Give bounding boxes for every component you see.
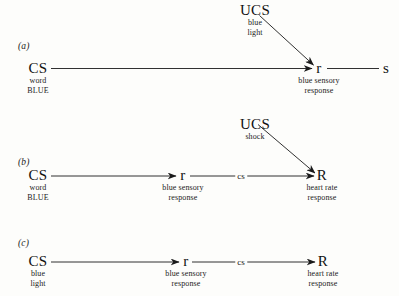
- node-a-ucs-name: UCS: [240, 3, 270, 18]
- node-c-cs: CS blue light: [29, 254, 48, 288]
- conditioning-diagram-figure: (a) UCS blue light CS word BLUE r blue s…: [0, 0, 399, 296]
- node-c-cs-sub1: blue: [29, 269, 48, 279]
- node-c-r: r blue sensory response: [165, 254, 206, 288]
- node-c-bigr-sub2: response: [308, 279, 339, 289]
- edge-label-b-cs: cs: [235, 172, 247, 181]
- node-c-cs-name: CS: [29, 254, 48, 269]
- edge-label-c-cs: cs: [235, 258, 247, 267]
- node-c-bigr: R heart rate response: [308, 254, 339, 288]
- diagram-connectors: [0, 0, 399, 296]
- node-b-bigr-sub2: response: [307, 193, 338, 203]
- node-c-r-sub1: blue sensory: [165, 269, 206, 279]
- node-b-cs: CS word BLUE: [27, 168, 48, 202]
- panel-label-c: (c): [18, 238, 29, 248]
- node-a-s: s: [383, 61, 389, 76]
- node-b-cs-sub2: BLUE: [27, 193, 48, 203]
- node-b-bigr-name: R: [307, 168, 338, 183]
- node-b-cs-name: CS: [27, 168, 48, 183]
- node-a-ucs-sub2: light: [240, 28, 270, 38]
- node-c-r-name: r: [165, 254, 206, 269]
- node-b-ucs-sub1: shock: [240, 132, 270, 142]
- node-a-cs-sub1: word: [27, 76, 48, 86]
- node-b-bigr: R heart rate response: [307, 168, 338, 202]
- node-b-r-sub1: blue sensory: [162, 183, 203, 193]
- node-c-r-sub2: response: [165, 279, 206, 289]
- node-a-r-sub2: response: [298, 86, 339, 96]
- node-b-cs-sub1: word: [27, 183, 48, 193]
- node-a-ucs-sub1: blue: [240, 18, 270, 28]
- node-a-r-sub1: blue sensory: [298, 76, 339, 86]
- panel-label-a: (a): [18, 41, 30, 51]
- node-a-cs-name: CS: [27, 61, 48, 76]
- node-c-bigr-name: R: [308, 254, 339, 269]
- panel-label-b: (b): [18, 157, 30, 167]
- node-c-bigr-sub1: heart rate: [308, 269, 339, 279]
- node-b-ucs: UCS shock: [240, 117, 270, 142]
- node-a-cs: CS word BLUE: [27, 61, 48, 95]
- node-b-ucs-name: UCS: [240, 117, 270, 132]
- node-a-ucs: UCS blue light: [240, 3, 270, 37]
- node-b-bigr-sub1: heart rate: [307, 183, 338, 193]
- node-b-r-name: r: [162, 168, 203, 183]
- node-b-r-sub2: response: [162, 193, 203, 203]
- node-c-cs-sub2: light: [29, 279, 48, 289]
- node-a-cs-sub2: BLUE: [27, 86, 48, 96]
- node-a-r-name: r: [298, 61, 339, 76]
- node-a-s-name: s: [383, 61, 389, 76]
- node-a-r: r blue sensory response: [298, 61, 339, 95]
- node-b-r: r blue sensory response: [162, 168, 203, 202]
